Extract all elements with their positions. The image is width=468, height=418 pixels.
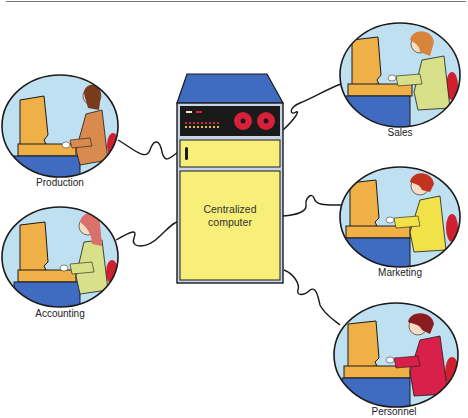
label-marketing: Marketing xyxy=(340,267,460,278)
workstation-accounting xyxy=(0,205,120,315)
centralized-computer xyxy=(177,74,283,283)
workstation-personnel xyxy=(332,300,462,410)
cable-production xyxy=(118,140,178,159)
label-production: Production xyxy=(0,177,120,188)
cable-marketing xyxy=(283,196,341,216)
workstation-production xyxy=(0,70,120,186)
label-accounting: Accounting xyxy=(0,308,120,319)
label-personnel: Personnel xyxy=(334,406,454,417)
cable-sales xyxy=(283,84,341,130)
workstation-sales xyxy=(338,20,463,130)
center-label-line1: Centralized xyxy=(186,203,274,216)
centralized-computer-label: Centralized computer xyxy=(186,203,274,229)
workstation-marketing xyxy=(338,165,463,270)
drawer-handle-icon xyxy=(185,147,188,160)
cable-personnel xyxy=(284,270,340,325)
cable-accounting xyxy=(116,222,178,246)
label-sales: Sales xyxy=(340,127,460,138)
center-label-line2: computer xyxy=(186,216,274,229)
